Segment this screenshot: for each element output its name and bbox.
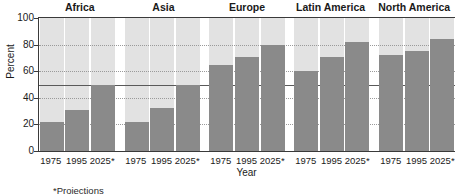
bar-group-north-america <box>378 18 455 151</box>
bar-europe-1995 <box>235 57 259 151</box>
bar-asia-1995 <box>150 108 174 151</box>
group-header-north-america: North America <box>372 0 456 16</box>
y-tick-label-100: 100 <box>17 13 34 23</box>
x-tick-group: 197519952025* <box>208 154 285 168</box>
bar-north-america-1975 <box>379 55 403 151</box>
group-header-europe: Europe <box>205 0 289 16</box>
bar-slot <box>40 18 64 151</box>
bar-slot <box>235 18 259 151</box>
x-tick-label-1995: 1995 <box>149 154 175 168</box>
x-tick-label-1975: 1975 <box>293 154 319 168</box>
bar-slot <box>294 18 318 151</box>
x-tick-label-2025: 2025* <box>174 154 200 168</box>
bar-asia-2025 <box>176 85 200 152</box>
y-tick-label-60: 60 <box>23 66 34 76</box>
bar-europe-2025 <box>261 45 285 151</box>
x-axis-tick-labels: 197519952025*197519952025*197519952025*1… <box>38 154 455 168</box>
bar-asia-1975 <box>125 122 149 151</box>
x-tick-label-2025: 2025* <box>259 154 285 168</box>
x-tick-gap <box>115 154 123 168</box>
chart-footnote: *Projections <box>53 185 104 194</box>
bar-north-america-2025 <box>430 39 454 151</box>
x-tick-label-1975: 1975 <box>378 154 404 168</box>
y-tick-label-20: 20 <box>23 119 34 129</box>
x-tick-label-2025: 2025* <box>429 154 455 168</box>
group-header-latin-america: Latin America <box>289 0 373 16</box>
x-tick-gap <box>200 154 208 168</box>
bar-group-asia <box>124 18 201 151</box>
x-tick-label-1975: 1975 <box>38 154 64 168</box>
bar-europe-1975 <box>209 65 233 151</box>
group-header-asia: Asia <box>122 0 206 16</box>
bar-slot <box>176 18 200 151</box>
y-tick-label-40: 40 <box>23 93 34 103</box>
x-axis-title: Year <box>38 167 455 179</box>
x-tick-label-1995: 1995 <box>234 154 260 168</box>
bar-slot <box>65 18 89 151</box>
x-tick-label-1995: 1995 <box>404 154 430 168</box>
x-tick-label-1995: 1995 <box>64 154 90 168</box>
x-tick-gap <box>370 154 378 168</box>
y-axis-title: Percent <box>5 30 16 94</box>
bar-group-europe <box>209 18 286 151</box>
bar-slot <box>150 18 174 151</box>
bar-africa-1995 <box>65 110 89 151</box>
bar-slot <box>91 18 115 151</box>
bar-series <box>39 18 455 151</box>
x-tick-label-1975: 1975 <box>123 154 149 168</box>
x-tick-label-1995: 1995 <box>319 154 345 168</box>
bar-slot <box>209 18 233 151</box>
x-tick-group: 197519952025* <box>378 154 455 168</box>
x-tick-label-1975: 1975 <box>208 154 234 168</box>
bar-group-latin-america <box>293 18 370 151</box>
x-tick-group: 197519952025* <box>293 154 370 168</box>
bar-africa-1975 <box>40 122 64 151</box>
x-tick-group: 197519952025* <box>38 154 115 168</box>
bar-latin-america-2025 <box>345 42 369 151</box>
bar-slot <box>125 18 149 151</box>
bar-africa-2025 <box>91 85 115 152</box>
group-header-row: AfricaAsiaEuropeLatin AmericaNorth Ameri… <box>38 0 456 16</box>
bar-slot <box>430 18 454 151</box>
x-tick-label-2025: 2025* <box>344 154 370 168</box>
bar-slot <box>379 18 403 151</box>
y-tick-label-80: 80 <box>23 40 34 50</box>
bar-latin-america-1975 <box>294 71 318 151</box>
x-tick-label-2025: 2025* <box>89 154 115 168</box>
bar-slot <box>405 18 429 151</box>
bar-slot <box>320 18 344 151</box>
bar-north-america-1995 <box>405 51 429 151</box>
bar-slot <box>345 18 369 151</box>
x-tick-group: 197519952025* <box>123 154 200 168</box>
x-tick-gap <box>285 154 293 168</box>
bar-slot <box>261 18 285 151</box>
plot-area <box>38 17 455 152</box>
bar-group-africa <box>39 18 116 151</box>
grouped-bar-chart: AfricaAsiaEuropeLatin AmericaNorth Ameri… <box>0 0 456 194</box>
group-header-africa: Africa <box>38 0 122 16</box>
bar-latin-america-1995 <box>320 57 344 151</box>
